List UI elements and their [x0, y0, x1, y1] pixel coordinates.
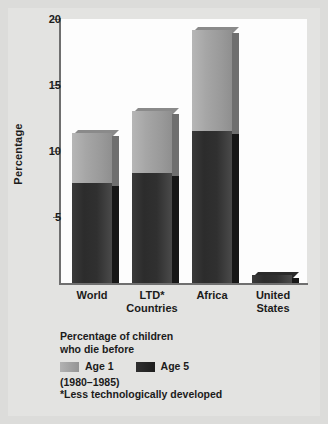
legend-heading-line2: who die before — [60, 343, 310, 356]
x-category-label-ltd-countries-line1: LTD* — [140, 289, 165, 301]
bar-side-face-age5-africa — [232, 134, 239, 283]
bar-segment-age5-africa[interactable] — [192, 131, 232, 283]
legend-heading-line1: Percentage of children — [60, 330, 310, 343]
legend-swatch-age-5-icon — [136, 362, 155, 372]
bar-group-united-states — [252, 272, 292, 283]
legend-label-age-1: Age 1 — [85, 360, 114, 373]
legend-swatch-age-1-icon — [60, 362, 79, 372]
bar-segment-age5-united-states[interactable] — [252, 275, 292, 283]
x-axis-line — [59, 283, 308, 285]
bar-side-face-age5-ltd-countries — [172, 176, 179, 283]
x-category-label-world: World — [62, 289, 122, 302]
x-category-label-africa: Africa — [182, 289, 242, 302]
chart-legend: Percentage of children who die before Ag… — [60, 330, 310, 389]
x-category-label-united-states-line1: United — [256, 289, 290, 301]
y-tick-label-20: 20 — [25, 14, 61, 25]
y-tick-label-5: 5 — [25, 212, 61, 223]
bar-segment-age5-world[interactable] — [72, 183, 112, 283]
bar-group-africa — [192, 27, 232, 283]
legend-item-age-1[interactable]: Age 1 — [60, 360, 114, 373]
x-category-label-ltd-countries: LTD* Countries — [118, 289, 186, 315]
x-category-label-united-states-line2: States — [256, 302, 289, 314]
bar-group-ltd-countries — [132, 108, 172, 283]
x-category-label-united-states: United States — [242, 289, 304, 315]
chart-footnote: *Less technologically developed — [60, 388, 222, 400]
bar-group-world — [72, 130, 112, 283]
y-axis-label: Percentage — [12, 114, 24, 194]
y-tick-label-10: 10 — [25, 146, 61, 157]
x-category-label-ltd-countries-line2: Countries — [126, 302, 177, 314]
bar-side-face-age5-united-states — [292, 278, 299, 283]
legend-label-age-5: Age 5 — [161, 360, 190, 373]
bar-segment-age5-ltd-countries[interactable] — [132, 173, 172, 283]
y-tick-label-15: 15 — [25, 80, 61, 91]
legend-items: Age 1 Age 5 — [60, 360, 310, 373]
x-category-label-africa-line1: Africa — [196, 289, 227, 301]
legend-item-age-5[interactable]: Age 5 — [136, 360, 190, 373]
chart-figure: 20 15 10 5 Percentage — [0, 0, 328, 424]
bar-side-face-age5-world — [112, 186, 119, 283]
x-category-label-world-line1: World — [77, 289, 108, 301]
y-axis-ticks: 20 15 10 5 — [0, 0, 61, 424]
